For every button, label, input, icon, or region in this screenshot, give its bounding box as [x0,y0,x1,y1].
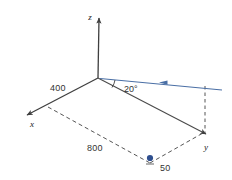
y-axis-label: y [203,142,208,152]
dimension-label-800: 800 [87,143,103,153]
y-axis-line [98,78,206,134]
dimension-label-50: 50 [160,163,170,173]
coordinate-axes-diagram: z x y 400 800 50 20° [0,0,232,180]
dashed-edge-right [150,133,203,163]
diagram-canvas: z x y 400 800 50 20° [0,0,232,180]
z-axis-label: z [87,12,92,22]
blue-point [147,155,153,161]
x-axis-label: x [29,119,34,129]
label-group: z x y 400 800 50 20° [29,12,208,173]
axis-group [27,18,206,134]
dimension-label-400: 400 [50,83,66,93]
dashed-edge-left [48,107,150,163]
angle-label-20: 20° [124,84,138,94]
z-axis-line [98,18,99,78]
base-outline-group [48,86,205,163]
